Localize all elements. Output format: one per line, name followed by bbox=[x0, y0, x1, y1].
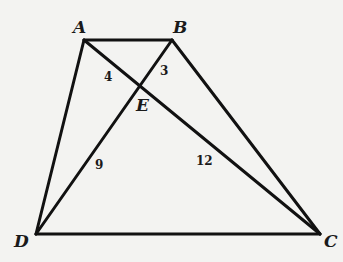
edge-bc bbox=[172, 40, 320, 234]
diagonal-ac bbox=[84, 40, 320, 234]
diagram-canvas: A B C D E 4 3 9 12 bbox=[0, 0, 343, 262]
vertex-label-d: D bbox=[13, 231, 29, 251]
edge-da bbox=[36, 40, 84, 234]
vertex-label-b: B bbox=[172, 17, 187, 37]
vertex-label-c: C bbox=[324, 231, 338, 251]
vertex-label-a: A bbox=[71, 17, 86, 37]
vertex-label-e: E bbox=[135, 95, 150, 115]
segment-label-de: 9 bbox=[95, 158, 103, 172]
segment-label-ce: 12 bbox=[196, 154, 213, 168]
segment-label-ae: 4 bbox=[104, 70, 112, 84]
segment-label-be: 3 bbox=[160, 64, 168, 78]
trapezoid-diagram: A B C D E 4 3 9 12 bbox=[0, 0, 343, 262]
